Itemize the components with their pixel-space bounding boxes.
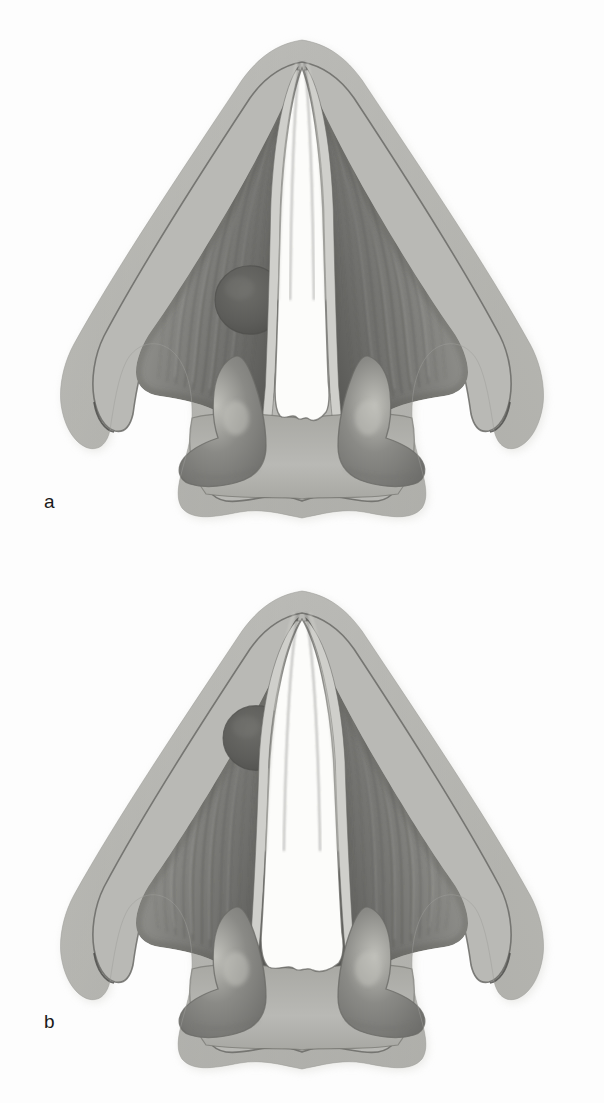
arytenoid-highlight	[223, 401, 249, 435]
larynx-illustration-b	[0, 551, 604, 1103]
larynx-illustration-a	[0, 0, 604, 552]
arytenoid-highlight	[355, 952, 381, 986]
mass-highlight	[232, 716, 260, 738]
arytenoid-highlight	[223, 952, 249, 986]
mass-highlight	[225, 277, 254, 300]
figure-page: a b	[0, 0, 604, 1103]
panel-label-a: a	[44, 492, 55, 511]
arytenoid-highlight	[355, 401, 381, 435]
panel-label-b: b	[44, 1012, 55, 1031]
figure-panel-b	[0, 551, 604, 1103]
figure-panel-a	[0, 0, 604, 552]
